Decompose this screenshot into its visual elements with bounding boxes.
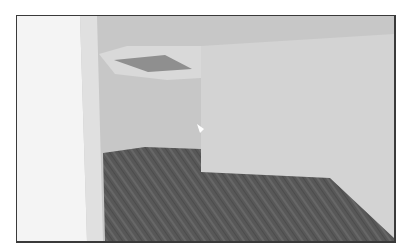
3d-viewport[interactable] (16, 15, 396, 243)
left-wall (17, 16, 87, 241)
room-scene[interactable] (17, 16, 394, 241)
